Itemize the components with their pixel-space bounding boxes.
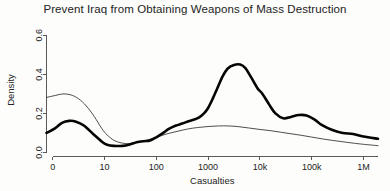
x-tick-label: 10: [100, 162, 110, 172]
y-tick-label: 0.4: [34, 68, 44, 81]
x-tick-label: 0: [50, 162, 55, 172]
x-tick-label: 1M: [357, 162, 370, 172]
x-tick-label: 10k: [253, 162, 268, 172]
x-tick-label: 100k: [302, 162, 322, 172]
y-tick-label: 0.6: [34, 29, 44, 42]
x-tick-label: 1000: [198, 162, 218, 172]
y-axis-title: Density: [5, 74, 16, 106]
thick-density-curve: [47, 64, 379, 146]
x-tick-label: 100: [149, 162, 164, 172]
x-axis: 010100100010k100k1M: [50, 157, 378, 172]
y-tick-label: 0.0: [34, 146, 44, 159]
chart-screenshot: Prevent Iraq from Obtaining Weapons of M…: [0, 0, 390, 191]
curve-layer: [47, 64, 379, 146]
density-plot: 0.00.20.40.6 010100100010k100k1M Casualt…: [0, 0, 390, 191]
y-axis: 0.00.20.40.6: [34, 29, 46, 159]
x-axis-title: Casualties: [190, 175, 235, 186]
y-tick-label: 0.2: [34, 107, 44, 120]
